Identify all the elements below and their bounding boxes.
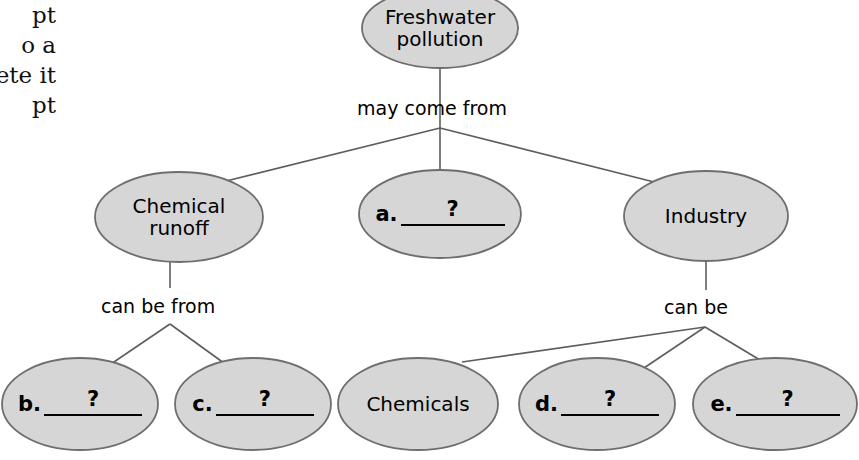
node-shape-industry[interactable] xyxy=(624,171,788,261)
blank-letter-b: b. xyxy=(18,394,41,416)
edge-right-fan-to-blank-e xyxy=(705,327,760,360)
blank-node-e[interactable]: e. ? xyxy=(693,358,857,450)
blank-letter-c: c. xyxy=(192,394,212,416)
blank-question-e: ? xyxy=(782,389,794,410)
blank-letter-e: e. xyxy=(710,394,732,416)
link-label-may-come-from: may come from xyxy=(357,97,507,119)
blank-letter-a: a. xyxy=(375,204,397,226)
node-shape-chemicals[interactable] xyxy=(338,358,498,450)
blank-node-c[interactable]: c. ? xyxy=(175,358,331,450)
node-shape-chemical-runoff[interactable] xyxy=(95,172,263,262)
link-label-can-be-from: can be from xyxy=(101,295,215,317)
blank-rule-c[interactable]: ? xyxy=(216,392,314,416)
blank-node-b[interactable]: b. ? xyxy=(2,358,158,450)
blank-letter-d: d. xyxy=(535,394,558,416)
blank-rule-d[interactable]: ? xyxy=(561,392,659,416)
concept-map-page: pt o a ete it pt Freshwater xyxy=(0,0,859,460)
blank-rule-b[interactable]: ? xyxy=(44,392,142,416)
blank-question-c: ? xyxy=(259,389,271,410)
node-shape-root[interactable] xyxy=(362,0,518,68)
link-label-can-be: can be xyxy=(664,296,728,318)
blank-question-a: ? xyxy=(446,199,458,220)
blank-question-d: ? xyxy=(604,389,616,410)
blank-node-d[interactable]: d. ? xyxy=(519,358,675,450)
edge-right-fan-to-chemicals xyxy=(462,327,705,362)
blank-rule-a[interactable]: ? xyxy=(401,202,505,226)
blank-rule-e[interactable]: ? xyxy=(736,392,840,416)
blank-node-a[interactable]: a. ? xyxy=(359,170,521,258)
blank-question-b: ? xyxy=(87,389,99,410)
